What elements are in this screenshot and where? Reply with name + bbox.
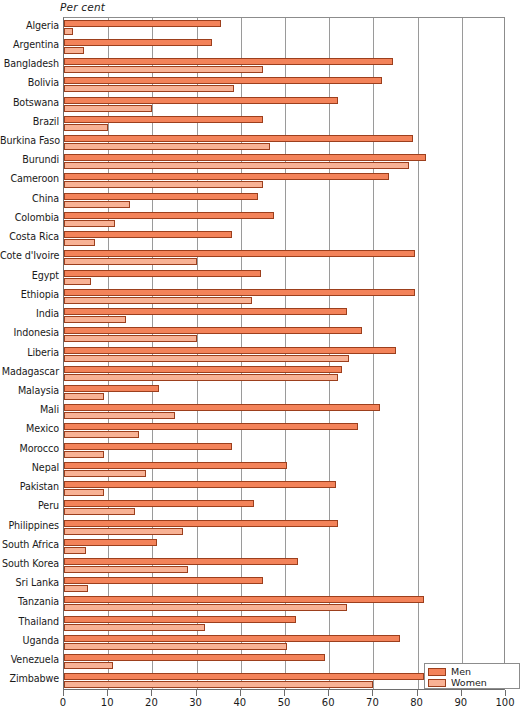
bar-women[interactable] xyxy=(64,258,197,265)
bar-women[interactable] xyxy=(64,547,86,554)
bar-women[interactable] xyxy=(64,85,234,92)
bar-women[interactable] xyxy=(64,412,175,419)
bar-women[interactable] xyxy=(64,393,104,400)
bar-women[interactable] xyxy=(64,508,135,515)
bar-women[interactable] xyxy=(64,566,188,573)
bar-men[interactable] xyxy=(64,500,254,507)
bar-women[interactable] xyxy=(64,316,126,323)
axis-tick-label: 10 xyxy=(101,697,114,708)
bar-men[interactable] xyxy=(64,116,263,123)
bar-men[interactable] xyxy=(64,673,424,680)
bar-men[interactable] xyxy=(64,173,389,180)
axis-tick-label: 100 xyxy=(495,697,514,708)
bar-women[interactable] xyxy=(64,431,139,438)
bar-men[interactable] xyxy=(64,250,415,257)
bar-men[interactable] xyxy=(64,423,358,430)
bar-row xyxy=(64,250,504,269)
category-label: Ethiopia xyxy=(0,289,59,300)
bar-women[interactable] xyxy=(64,489,104,496)
bar-men[interactable] xyxy=(64,193,258,200)
bar-men[interactable] xyxy=(64,596,424,603)
bar-men[interactable] xyxy=(64,327,362,334)
bar-row xyxy=(64,135,504,154)
bar-women[interactable] xyxy=(64,47,84,54)
bar-row xyxy=(64,20,504,39)
bar-women[interactable] xyxy=(64,643,287,650)
bar-women[interactable] xyxy=(64,105,152,112)
bar-men[interactable] xyxy=(64,635,400,642)
axis-tick-label: 50 xyxy=(278,697,291,708)
category-label: Mali xyxy=(0,404,59,415)
bar-men[interactable] xyxy=(64,654,325,661)
axis-tick-80 xyxy=(417,690,418,696)
bar-men[interactable] xyxy=(64,20,221,27)
bar-women[interactable] xyxy=(64,124,108,131)
category-label: Indonesia xyxy=(0,327,59,338)
bar-women[interactable] xyxy=(64,278,91,285)
bar-men[interactable] xyxy=(64,270,261,277)
bar-men[interactable] xyxy=(64,404,380,411)
bar-row xyxy=(64,520,504,539)
bar-men[interactable] xyxy=(64,558,298,565)
bar-women[interactable] xyxy=(64,220,115,227)
axis-unit-label: Per cent xyxy=(60,1,105,13)
bar-women[interactable] xyxy=(64,624,205,631)
category-label: Burkina Faso xyxy=(0,135,59,146)
bar-row xyxy=(64,366,504,385)
category-label: Costa Rica xyxy=(0,231,59,242)
axis-tick-60 xyxy=(328,690,329,696)
bar-row xyxy=(64,39,504,58)
bar-men[interactable] xyxy=(64,154,426,161)
bar-women[interactable] xyxy=(64,662,113,669)
bar-men[interactable] xyxy=(64,539,157,546)
bar-women[interactable] xyxy=(64,335,197,342)
category-label: Malaysia xyxy=(0,385,59,396)
category-label: Liberia xyxy=(0,347,59,358)
bar-men[interactable] xyxy=(64,212,274,219)
bar-men[interactable] xyxy=(64,308,347,315)
bar-men[interactable] xyxy=(64,135,413,142)
bar-women[interactable] xyxy=(64,66,263,73)
axis-tick-label: 70 xyxy=(366,697,379,708)
legend-item-men[interactable]: Men xyxy=(428,667,516,677)
bar-men[interactable] xyxy=(64,462,287,469)
bar-women[interactable] xyxy=(64,374,338,381)
bar-men[interactable] xyxy=(64,77,382,84)
bar-women[interactable] xyxy=(64,451,104,458)
bar-row xyxy=(64,58,504,77)
bar-women[interactable] xyxy=(64,201,130,208)
bar-men[interactable] xyxy=(64,481,336,488)
bar-women[interactable] xyxy=(64,470,146,477)
bar-men[interactable] xyxy=(64,97,338,104)
bar-women[interactable] xyxy=(64,585,88,592)
bar-women[interactable] xyxy=(64,604,347,611)
legend-item-women[interactable]: Women xyxy=(428,678,516,688)
bar-men[interactable] xyxy=(64,616,296,623)
bar-row xyxy=(64,327,504,346)
bar-women[interactable] xyxy=(64,528,183,535)
bar-men[interactable] xyxy=(64,231,232,238)
bar-women[interactable] xyxy=(64,143,270,150)
legend: Men Women xyxy=(424,663,520,689)
bar-men[interactable] xyxy=(64,347,396,354)
bar-women[interactable] xyxy=(64,239,95,246)
bar-men[interactable] xyxy=(64,443,232,450)
bar-women[interactable] xyxy=(64,355,349,362)
bar-row xyxy=(64,385,504,404)
category-label: South Korea xyxy=(0,558,59,569)
bar-men[interactable] xyxy=(64,366,342,373)
bar-women[interactable] xyxy=(64,681,373,688)
bar-women[interactable] xyxy=(64,181,263,188)
bar-row xyxy=(64,635,504,654)
bar-men[interactable] xyxy=(64,385,159,392)
bar-men[interactable] xyxy=(64,577,263,584)
bar-women[interactable] xyxy=(64,28,73,35)
bar-women[interactable] xyxy=(64,297,252,304)
bar-men[interactable] xyxy=(64,58,393,65)
bar-men[interactable] xyxy=(64,39,212,46)
bar-men[interactable] xyxy=(64,520,338,527)
plot-area xyxy=(63,17,505,690)
bar-women[interactable] xyxy=(64,162,409,169)
bar-men[interactable] xyxy=(64,289,415,296)
bar-row xyxy=(64,577,504,596)
